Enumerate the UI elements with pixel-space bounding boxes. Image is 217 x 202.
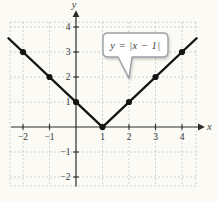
y-axis-label: y (71, 0, 77, 10)
x-tick-label: −1 (44, 132, 54, 142)
y-axis-arrowhead (73, 10, 80, 17)
data-point (179, 49, 185, 55)
x-tick-label: 1 (100, 132, 105, 142)
data-point (20, 49, 26, 55)
y-tick-label: −2 (60, 172, 70, 182)
equation-callout: y = |x − 1| (103, 33, 168, 78)
y-tick-label: 1 (66, 97, 71, 107)
y-tick-label: 3 (66, 47, 71, 57)
data-point (46, 74, 52, 80)
y-tick-label: 4 (66, 22, 71, 32)
y-tick-label: 2 (66, 72, 71, 82)
x-tick-label: 4 (180, 132, 185, 142)
absolute-value-graph-figure: −2−11234−2−11234 x y y = |x − 1| (0, 0, 217, 202)
x-tick-label: 3 (153, 132, 158, 142)
plot-svg: −2−11234−2−11234 x y y = |x − 1| (0, 0, 217, 202)
data-point (126, 99, 132, 105)
data-point (99, 124, 105, 130)
x-tick-label: 2 (127, 132, 132, 142)
data-point (73, 99, 79, 105)
data-points (20, 49, 185, 130)
equation-label: y = |x − 1| (109, 40, 161, 51)
data-point (152, 74, 158, 80)
x-axis-label: x (206, 121, 212, 132)
y-tick-label: −1 (60, 147, 70, 157)
x-axis-arrowhead (198, 124, 205, 131)
x-tick-label: −2 (18, 132, 28, 142)
